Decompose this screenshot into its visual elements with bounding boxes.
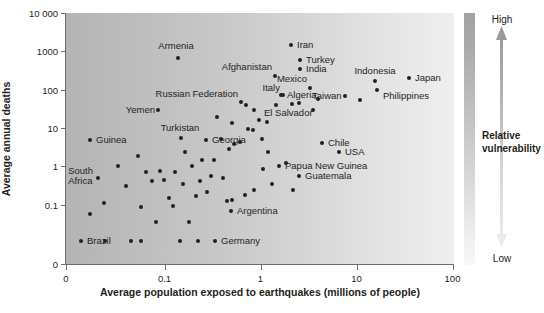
data-point [196,239,200,243]
data-point [252,108,256,112]
y-tick-label: 10 000 [29,8,58,19]
legend-high-label: High [492,14,513,25]
x-tick-mark [453,265,454,270]
x-tick-label: 0.1 [158,273,171,284]
x-tick-label: 1 [258,273,263,284]
data-point-guatemala [297,174,301,178]
data-label-mexico: Mexico [277,74,307,84]
data-label-guinea: Guinea [96,135,127,145]
x-tick-mark [261,265,262,270]
data-point [221,176,225,180]
x-axis-line [65,264,454,265]
data-point [139,205,143,209]
data-label-italy: Italy [263,83,280,93]
data-point [136,154,140,158]
data-label-yemen: Yemen [126,105,155,115]
data-point [181,182,185,186]
data-point [265,120,269,124]
data-point [162,178,166,182]
legend-title: Relativevulnerability [482,130,541,155]
data-point [246,127,250,131]
data-point-turkey [298,58,302,62]
data-point-guinea [88,138,92,142]
data-label-south-africa: SouthAfrica [68,166,93,185]
data-point-south-africa [96,176,100,180]
y-tick-label: 1 [53,161,58,172]
data-point [167,196,171,200]
data-point-argentina [229,209,233,213]
data-label-taiwan: Taiwan [312,91,342,101]
data-point-philippines [375,88,379,92]
data-label-india: India [306,64,327,74]
data-point-yemen [156,108,160,112]
y-tick-label: 100 [42,84,58,95]
data-point [200,158,204,162]
x-tick-label: 10 [351,273,362,284]
data-label-russian-federation: Russian Federation [156,89,238,99]
data-point [187,220,191,224]
data-point [209,174,213,178]
data-label-philippines: Philippines [383,91,429,101]
data-point [290,102,294,106]
data-point [190,164,194,168]
data-point [251,128,255,132]
data-label-brazil: Brazil [87,236,111,246]
data-label-georgia: Georgia [212,135,246,145]
data-point [183,150,187,154]
legend-title-word: Relative [482,130,520,141]
y-axis-title-text: Average annual deaths [0,81,12,196]
data-point [225,199,229,203]
x-tick-mark [357,265,358,270]
y-tick-mark [61,51,66,52]
x-tick-mark [165,265,166,270]
data-point [212,158,216,162]
data-point [261,167,265,171]
data-point [260,137,264,141]
y-tick-mark [61,166,66,167]
data-point [205,190,209,194]
data-label-japan: Japan [415,73,441,83]
y-tick-label: 0 [53,259,58,270]
data-point [154,220,158,224]
data-label-iran: Iran [297,40,313,50]
data-point-india [298,67,302,71]
legend-title-word: vulnerability [482,143,541,154]
data-point [171,204,175,208]
data-label-turkistan: Turkistan [161,123,200,133]
y-tick-label: 1000 [37,46,58,57]
x-tick-label: 0 [63,273,68,284]
data-point-chile [320,141,324,145]
y-tick-mark [61,13,66,14]
y-tick-mark [61,90,66,91]
data-point-el-salvador [257,118,261,122]
data-point [158,169,162,173]
data-point [230,198,234,202]
y-tick-label: 10 [47,122,58,133]
data-point [198,179,202,183]
data-point [252,188,256,192]
data-point [270,182,274,186]
vulnerability-gradient-bar [464,13,475,265]
data-point [116,164,120,168]
data-point [88,212,92,216]
data-label-argentina: Argentina [237,206,278,216]
earthquake-scatter-chart: 10 00010001001010.10 00.1110100 Average … [0,0,544,313]
data-point-brazil [79,239,83,243]
data-point [215,115,219,119]
data-point [173,170,177,174]
data-label-indonesia: Indonesia [354,66,395,76]
data-point-iran [289,43,293,47]
y-tick-mark [61,128,66,129]
y-axis-title: Average annual deaths [0,13,14,264]
data-point-germany [213,239,217,243]
data-point [266,150,270,154]
data-point [178,239,182,243]
data-point [144,170,148,174]
data-point [243,193,247,197]
data-label-guatemala: Guatemala [305,171,351,181]
data-point-taiwan [343,94,347,98]
data-point [358,98,362,102]
data-label-armenia: Armenia [158,41,193,51]
data-point [244,103,248,107]
data-point-usa [337,150,341,154]
